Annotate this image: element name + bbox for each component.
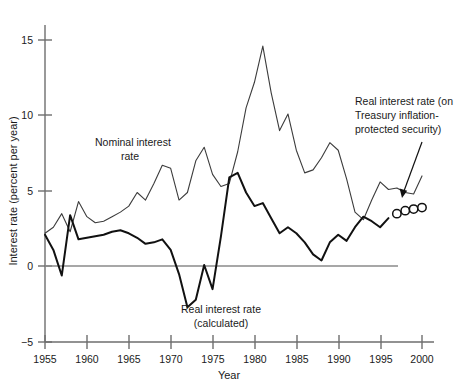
tips-data-point — [393, 209, 401, 217]
x-tick-label-1970: 1970 — [159, 353, 183, 365]
y-axis-title: Interest rate (percent per year) — [7, 116, 19, 265]
y-tick-label-0: 0 — [27, 260, 33, 272]
interest-rate-line-chart: 15 10 5 0 −5 1955 1960 1965 1970 1975 19… — [0, 0, 459, 383]
y-tick-label-5: 5 — [27, 185, 33, 197]
x-tick-label-1955: 1955 — [33, 353, 57, 365]
x-tick-label-1965: 1965 — [117, 353, 141, 365]
y-tick-label-neg5: −5 — [21, 336, 33, 348]
x-tick-label-1990: 1990 — [327, 353, 351, 365]
chart-figure: 15 10 5 0 −5 1955 1960 1965 1970 1975 19… — [0, 0, 459, 383]
annotation-tips-line3: protected security) — [355, 123, 441, 135]
annotation-tips-line2: Treasury inflation- — [355, 109, 439, 121]
annotation-nominal-line1: Nominal interest — [95, 136, 171, 148]
annotation-nominal-line2: rate — [121, 150, 139, 162]
x-tick-label-2000: 2000 — [410, 353, 434, 365]
x-axis-title: Year — [218, 369, 241, 381]
annotation-tips-line1: Real interest rate (on — [355, 95, 453, 107]
x-tick-label-1975: 1975 — [201, 353, 225, 365]
tips-data-point — [401, 206, 409, 214]
y-tick-label-10: 10 — [21, 109, 33, 121]
y-tick-label-15: 15 — [21, 34, 33, 46]
annotation-real-calculated-line2: (calculated) — [194, 317, 248, 329]
annotation-real-calculated-line1: Real interest rate — [181, 303, 261, 315]
x-tick-label-1960: 1960 — [75, 353, 99, 365]
x-tick-label-1985: 1985 — [285, 353, 309, 365]
tips-data-point — [409, 205, 417, 213]
x-tick-label-1995: 1995 — [369, 353, 393, 365]
tips-data-point — [418, 203, 426, 211]
x-tick-label-1980: 1980 — [243, 353, 267, 365]
